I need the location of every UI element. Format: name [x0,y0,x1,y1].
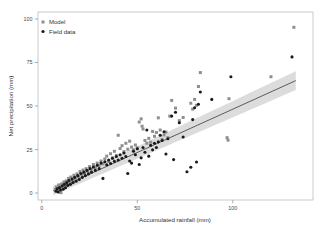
data-point [117,158,120,161]
data-point [115,155,118,158]
data-point [78,178,81,181]
data-point [107,158,110,161]
data-point [142,127,145,130]
legend-marker-field-data [41,30,44,33]
data-point [292,26,295,29]
data-point [119,153,122,156]
data-point [128,140,131,143]
x-tick-label: 0 [40,205,43,211]
data-point [182,116,185,119]
data-point [227,139,230,142]
y-tick-label: 50 [27,103,33,109]
data-point [66,184,69,187]
data-point [103,157,106,160]
data-point [155,146,158,149]
data-point [163,133,166,136]
data-point [96,164,99,167]
data-point [85,169,88,172]
data-point [149,141,152,144]
data-point [164,152,167,155]
legend-label-field-data: Field data [49,29,76,35]
data-point [109,162,112,165]
y-axis-title: Net precipitation (mm) [7,76,14,137]
data-point [151,130,154,133]
data-point [290,55,293,58]
data-point [132,150,135,153]
data-point [193,106,196,109]
data-point [162,130,165,133]
data-point [120,157,123,160]
data-point [145,142,148,145]
data-point [119,147,122,150]
data-point [111,157,114,160]
data-point [178,121,181,124]
data-point [57,190,60,193]
data-point [75,180,78,183]
data-point [229,75,232,78]
data-point [147,137,150,140]
data-point [69,183,72,186]
data-point [149,144,152,147]
data-point [141,146,144,149]
data-point [94,169,97,172]
data-point [65,181,68,184]
data-point [134,143,137,146]
data-point [101,177,104,180]
data-point [145,128,148,131]
data-point [195,161,198,164]
data-point [140,117,143,120]
data-point [161,139,164,142]
x-tick-label: 50 [134,205,140,211]
data-point [124,142,127,145]
data-point [141,125,144,128]
data-point [155,131,158,134]
data-point [126,148,129,151]
data-point [151,148,154,151]
data-point [199,71,202,74]
data-point [124,155,127,158]
data-point [103,160,106,163]
data-point [191,118,194,121]
legend-marker-model [42,21,45,24]
data-point [157,116,160,119]
data-point [172,158,175,161]
data-point [170,99,173,102]
data-point [87,172,90,175]
data-point [98,167,101,170]
data-point [113,160,116,163]
data-point [81,176,84,179]
data-point [143,139,146,142]
data-point [105,163,108,166]
y-tick-label: 100 [24,16,33,22]
data-point [76,174,79,177]
data-point [174,107,177,110]
data-point [122,151,125,154]
data-point [159,134,162,137]
data-point [117,134,120,137]
data-point [157,140,160,143]
data-point [67,179,70,182]
data-point [159,129,162,132]
data-point [189,102,192,105]
chart-figure: 050100 0255075100 Accumulated rainfall (… [0,0,330,227]
data-point [70,178,73,181]
data-point [109,152,112,155]
data-point [269,75,272,78]
data-point [88,167,91,170]
data-point [121,144,124,147]
y-axis: 0255075100 [24,16,39,196]
data-point [182,135,185,138]
data-point [92,165,95,168]
data-point [166,137,169,140]
data-point [185,170,188,173]
y-tick-label: 75 [27,59,33,65]
data-point [147,155,150,158]
data-point [197,85,200,88]
data-point [73,176,76,179]
data-point [227,97,230,100]
data-point [59,188,62,191]
data-point [189,166,192,169]
data-point [140,156,143,159]
data-point [79,172,82,175]
data-point [105,155,108,158]
